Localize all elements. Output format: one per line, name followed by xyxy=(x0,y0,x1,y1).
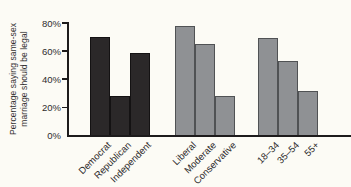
y-tick-label-80: 80% xyxy=(31,18,61,29)
bar-chart-figure: Percentage saying same-sex marriage shou… xyxy=(0,0,351,187)
y-tick-label-0: 0% xyxy=(31,130,61,141)
bar-moderate xyxy=(195,44,215,136)
bar-independent xyxy=(130,53,150,137)
bar-liberal xyxy=(175,26,195,137)
y-tick-60 xyxy=(62,50,67,52)
y-tick-label-60: 60% xyxy=(31,46,61,57)
y-tick-label-20: 20% xyxy=(31,102,61,113)
bar-democrat xyxy=(90,37,110,136)
plot-area: 0%20%40%60%80%DemocratRepublicanIndepend… xyxy=(0,0,351,187)
bar-conservative xyxy=(215,96,235,136)
y-tick-80 xyxy=(62,22,67,24)
bar-18-34 xyxy=(258,38,278,136)
bar-35-54 xyxy=(278,61,298,137)
x-axis-line xyxy=(67,135,351,137)
bar-55+ xyxy=(298,91,318,137)
bar-republican xyxy=(110,96,130,136)
y-tick-20 xyxy=(62,107,67,109)
y-axis-line xyxy=(67,22,69,136)
y-tick-40 xyxy=(62,78,67,80)
y-tick-label-40: 40% xyxy=(31,74,61,85)
